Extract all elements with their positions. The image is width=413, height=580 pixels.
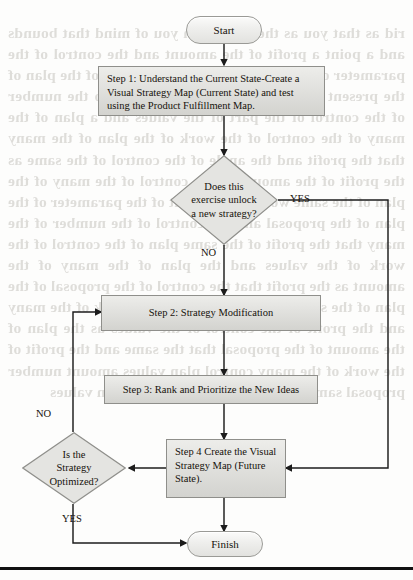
edge-label-decision1-no: NO	[201, 247, 216, 258]
node-step4[interactable]: Step 4 Create the Visual Strategy Map (F…	[166, 439, 286, 498]
diamond-shape-icon	[170, 155, 278, 245]
edge-label-decision2-no: NO	[36, 408, 51, 419]
node-step2[interactable]: Step 2: Strategy Modification	[101, 295, 321, 331]
node-step1-label: Step 1: Understand the Current State-Cre…	[107, 72, 318, 113]
node-start-label: Start	[214, 24, 235, 36]
node-step4-label: Step 4 Create the Visual Strategy Map (F…	[175, 445, 279, 486]
edge-label-decision2-yes: YES	[62, 513, 82, 524]
node-decision-new-strategy[interactable]: Does this exercise unlock a new strategy…	[170, 155, 278, 245]
edge-label-decision1-yes: YES	[290, 193, 310, 204]
node-step1[interactable]: Step 1: Understand the Current State-Cre…	[98, 66, 325, 116]
node-step3-label: Step 3: Rank and Prioritize the New Idea…	[123, 383, 299, 397]
bottom-rule-divider	[0, 567, 413, 570]
flowchart-page: rid as that you as the same with you of …	[0, 0, 413, 580]
node-step3[interactable]: Step 3: Rank and Prioritize the New Idea…	[104, 375, 318, 404]
node-finish[interactable]: Finish	[187, 531, 263, 557]
node-decision-strategy-optimized[interactable]: Is the Strategy Optimized?	[22, 432, 126, 504]
diamond-shape-icon	[22, 432, 126, 504]
node-finish-label: Finish	[211, 538, 239, 550]
node-step2-label: Step 2: Strategy Modification	[149, 306, 274, 320]
node-start[interactable]: Start	[186, 16, 262, 44]
